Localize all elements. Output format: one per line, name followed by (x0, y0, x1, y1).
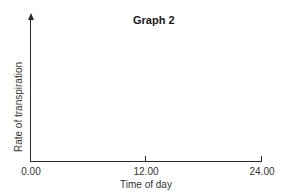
x-tick-label-0: 0.00 (21, 166, 40, 177)
chart-title: Graph 2 (133, 14, 175, 26)
x-tick-label-12: 12.00 (133, 166, 158, 177)
chart: Graph 2 0.00 12.00 24.00 Time of day Rat… (0, 0, 286, 196)
x-tick-0 (30, 156, 31, 161)
y-axis (30, 18, 31, 161)
y-axis-label: Rate of transpiration (13, 62, 24, 152)
x-axis (30, 161, 262, 162)
x-tick-24 (261, 156, 262, 161)
x-tick-12 (145, 156, 146, 161)
x-tick-label-24: 24.00 (249, 166, 274, 177)
x-axis-label: Time of day (120, 179, 172, 190)
